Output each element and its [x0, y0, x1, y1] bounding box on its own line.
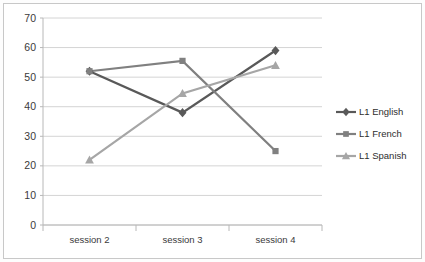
gridlines — [43, 18, 322, 225]
data-point-triangle-marker — [271, 61, 280, 69]
legend-item-label: L1 French — [359, 128, 402, 139]
data-point-square-marker — [179, 58, 185, 64]
data-point-square-marker — [343, 131, 349, 137]
chart-canvas: 010203040506070 session 2session 3sessio… — [0, 0, 425, 262]
line-chart: 010203040506070 session 2session 3sessio… — [0, 0, 425, 262]
legend-item-label: L1 Spanish — [359, 150, 407, 161]
y-tick-label: 50 — [24, 71, 36, 83]
x-category-label: session 3 — [162, 234, 202, 245]
data-point-diamond-marker — [342, 108, 349, 116]
chart-legend: L1 EnglishL1 FrenchL1 Spanish — [336, 106, 407, 161]
x-axis-tick-marks — [43, 225, 322, 231]
y-axis-tick-labels: 010203040506070 — [24, 12, 43, 231]
y-tick-label: 10 — [24, 189, 36, 201]
y-tick-label: 40 — [24, 100, 36, 112]
x-category-label: session 4 — [255, 234, 295, 245]
x-axis-category-labels: session 2session 3session 4 — [69, 234, 295, 245]
y-tick-label: 20 — [24, 159, 36, 171]
data-point-diamond-marker — [179, 108, 187, 117]
y-tick-label: 70 — [24, 12, 36, 24]
chart-screenshot: 010203040506070 session 2session 3sessio… — [0, 0, 425, 262]
y-tick-label: 0 — [30, 219, 36, 231]
series-lines — [85, 46, 280, 164]
data-point-square-marker — [272, 148, 278, 154]
y-tick-label: 30 — [24, 130, 36, 142]
x-category-label: session 2 — [69, 234, 109, 245]
data-point-square-marker — [86, 68, 92, 74]
legend-item-label: L1 English — [359, 106, 403, 117]
y-tick-label: 60 — [24, 41, 36, 53]
